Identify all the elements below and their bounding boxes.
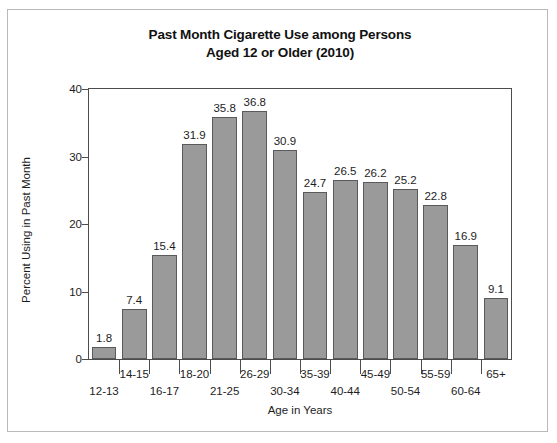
y-tick-label-20: 20: [56, 218, 82, 230]
y-tick-mark-30: [82, 157, 88, 158]
chart-title-line-2: Aged 12 or Older (2010): [40, 44, 520, 62]
bar-value-30-34: 30.9: [274, 135, 296, 147]
chart-title-line-1: Past Month Cigarette Use among Persons: [40, 26, 520, 44]
bar-40-44: [333, 180, 358, 359]
y-tick-mark-20: [82, 224, 88, 225]
x-tick-label-12-13: 12-13: [89, 385, 118, 397]
bar-value-65+: 9.1: [488, 283, 504, 295]
bar-value-40-44: 26.5: [334, 165, 356, 177]
bar-30-34: [273, 150, 298, 359]
y-axis-tick-labels: 010203040: [52, 0, 82, 443]
x-tick-label-26-29: 26-29: [240, 368, 269, 380]
bar-21-25: [212, 117, 237, 359]
bar-50-54: [393, 189, 418, 359]
x-tick-label-18-20: 18-20: [180, 368, 209, 380]
bar-value-18-20: 31.9: [183, 129, 205, 141]
y-tick-label-30: 30: [56, 151, 82, 163]
chart-title: Past Month Cigarette Use among PersonsAg…: [40, 26, 520, 62]
x-tick-label-65+: 65+: [486, 368, 506, 380]
y-tick-label-10: 10: [56, 286, 82, 298]
bar-12-13: [92, 347, 117, 359]
bar-value-26-29: 36.8: [244, 96, 266, 108]
y-axis-title: Percent Using in Past Month: [20, 140, 32, 320]
bar-55-59: [423, 205, 448, 359]
bar-value-50-54: 25.2: [394, 174, 416, 186]
bar-value-14-15: 7.4: [126, 294, 142, 306]
x-tick-mark-2: [149, 360, 150, 374]
bar-16-17: [152, 255, 177, 359]
x-tick-mark-6: [270, 360, 271, 374]
bar-65+: [484, 298, 509, 359]
x-tick-label-14-15: 14-15: [119, 368, 148, 380]
y-tick-mark-0: [82, 359, 88, 360]
bar-value-12-13: 1.8: [96, 332, 112, 344]
x-tick-mark-8: [330, 360, 331, 374]
x-tick-label-45-49: 45-49: [361, 368, 390, 380]
y-tick-mark-40: [82, 89, 88, 90]
x-tick-label-30-34: 30-34: [270, 385, 299, 397]
y-tick-label-0: 0: [56, 353, 82, 365]
x-tick-label-35-39: 35-39: [300, 368, 329, 380]
bar-value-55-59: 22.8: [424, 190, 446, 202]
bar-14-15: [122, 309, 147, 359]
x-tick-mark-10: [390, 360, 391, 374]
bar-value-60-64: 16.9: [455, 230, 477, 242]
chart-figure: Past Month Cigarette Use among PersonsAg…: [0, 0, 557, 443]
x-tick-label-21-25: 21-25: [210, 385, 239, 397]
y-tick-mark-10: [82, 292, 88, 293]
x-axis-title: Age in Years: [88, 404, 512, 416]
bar-26-29: [242, 111, 267, 359]
plot-area: 1.87.415.431.935.836.830.924.726.526.225…: [89, 89, 511, 359]
x-tick-label-50-54: 50-54: [391, 385, 420, 397]
x-tick-label-16-17: 16-17: [150, 385, 179, 397]
x-tick-label-55-59: 55-59: [421, 368, 450, 380]
x-tick-mark-4: [210, 360, 211, 374]
bar-value-21-25: 35.8: [213, 102, 235, 114]
y-tick-label-40: 40: [56, 83, 82, 95]
bar-value-16-17: 15.4: [153, 240, 175, 252]
x-tick-label-60-64: 60-64: [451, 385, 480, 397]
x-tick-mark-13: [481, 360, 482, 374]
bar-value-45-49: 26.2: [364, 167, 386, 179]
x-tick-label-40-44: 40-44: [330, 385, 359, 397]
bar-18-20: [182, 144, 207, 359]
bar-60-64: [453, 245, 478, 359]
bar-45-49: [363, 182, 388, 359]
bar-value-35-39: 24.7: [304, 177, 326, 189]
x-tick-mark-12: [451, 360, 452, 374]
bar-35-39: [303, 192, 328, 359]
